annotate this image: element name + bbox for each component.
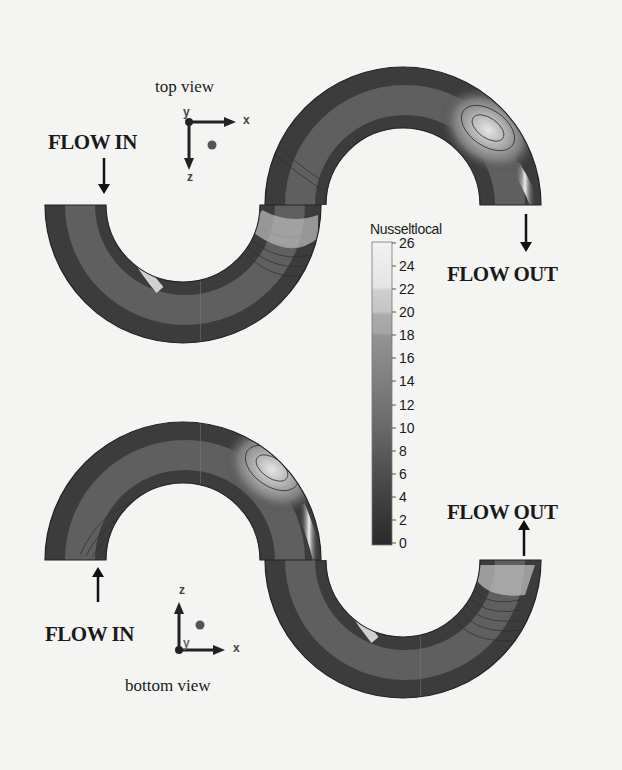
bottom-flow-in-label: FLOW IN: [45, 622, 134, 647]
colorbar-tick: 2: [399, 513, 429, 527]
top-flow-in-label: FLOW IN: [48, 130, 137, 155]
flow-out-arrow-bottom: [518, 520, 530, 556]
bottom-flow-out-label: FLOW OUT: [447, 500, 558, 525]
flow-out-arrow-top: [520, 214, 532, 252]
nusselt-contour-figure: [0, 0, 622, 770]
bottom-view-pipe: [40, 400, 550, 710]
colorbar-tick: 20: [399, 305, 429, 319]
bottom-axis-z-label: z: [179, 583, 185, 597]
colorbar-tick: 12: [399, 398, 429, 412]
top-axis-y-label: y: [183, 105, 190, 119]
bottom-axis-x-label: x: [233, 641, 240, 655]
colorbar-tick: 22: [399, 282, 429, 296]
top-view-axis-triad: [184, 117, 236, 170]
colorbar-tick: 6: [399, 467, 429, 481]
colorbar-tick: 18: [399, 328, 429, 342]
colorbar-tick: 10: [399, 421, 429, 435]
top-view-pipe: [40, 55, 552, 355]
colorbar-tick: 24: [399, 259, 429, 273]
colorbar-tick: 4: [399, 490, 429, 504]
bottom-view-title: bottom view: [125, 676, 210, 696]
nusselt-colorbar: [372, 242, 396, 545]
flow-in-arrow-bottom: [92, 567, 104, 602]
bottom-axis-y-label: y: [183, 636, 190, 650]
top-axis-x-label: x: [243, 113, 250, 127]
top-flow-out-label: FLOW OUT: [447, 262, 558, 287]
flow-in-arrow-top: [98, 158, 110, 194]
colorbar-tick: 14: [399, 374, 429, 388]
colorbar-tick: 0: [399, 536, 429, 550]
top-view-title: top view: [155, 77, 214, 97]
top-axis-z-label: z: [187, 170, 193, 184]
colorbar-tick: 26: [399, 236, 429, 250]
colorbar-tick: 8: [399, 444, 429, 458]
colorbar-tick: 16: [399, 351, 429, 365]
bottom-view-axis-triad: [174, 602, 225, 655]
